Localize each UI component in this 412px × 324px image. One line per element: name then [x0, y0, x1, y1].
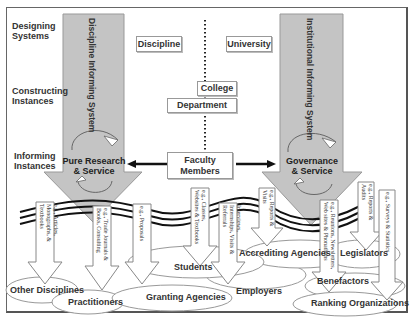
faculty-line: Members [168, 166, 232, 177]
faculty-members-box: Faculty Members [167, 152, 233, 179]
channel-text: e.g., Articles, Monographs, & Textbooks [38, 204, 59, 262]
label-line: Instances [14, 161, 56, 171]
label-line: Instances [12, 96, 68, 106]
audience-benefactors: Benefactors [317, 276, 369, 286]
audience-practitioners: Practitioners [68, 297, 123, 307]
channel-text: e.g., Reports & Audits [360, 184, 374, 230]
audience-other-disciplines: Other Disciplines [10, 285, 84, 295]
channel-text: e.g., Trade Journals & Books, Consulting [95, 208, 109, 266]
department-box: Department [167, 98, 237, 113]
audience-students: Students [174, 262, 213, 272]
pure-research-service: Pure Research & Service [62, 156, 126, 176]
university-box: University [226, 36, 272, 52]
center-line: Governance [280, 156, 344, 166]
center-line: & Service [62, 166, 126, 176]
faculty-line: Faculty [168, 155, 232, 166]
audience-employers: Employers [236, 286, 282, 296]
discipline-box: Discipline [136, 36, 182, 52]
channel-text: e.g., Reunions, Newsletters, Web sites &… [322, 202, 336, 270]
audience-accrediting-agencies: Accrediting Agencies [239, 248, 331, 258]
arrow-to-governance-icon [267, 160, 276, 168]
label-constructing-instances: Constructing Instances [12, 86, 68, 106]
channel-text: e.g., Reports & Visits [261, 190, 275, 228]
channel-text: e.g., Classes, Websites & Textbooks [193, 190, 207, 244]
label-line: Informing [14, 151, 56, 161]
governance-service: Governance & Service [280, 156, 344, 176]
audience-granting-agencies: Granting Agencies [146, 292, 226, 302]
arrow-to-pure-research-icon [127, 160, 136, 168]
label-designing-systems: Designing Systems [12, 21, 56, 41]
audience-ranking-organizations: Ranking Organizations [311, 298, 409, 308]
label-line: Designing [12, 21, 56, 31]
channel-text: e.g., Proposals [138, 206, 145, 260]
discipline-system-title: Discipline Informing System [87, 18, 97, 132]
label-line: Systems [12, 31, 56, 41]
label-line: Constructing [12, 86, 68, 96]
institutional-system-title: Institutional Informing System [305, 18, 315, 140]
label-informing-instances: Informing Instances [14, 151, 56, 171]
audience-legislators: Legislators [340, 248, 388, 258]
channel-text: e.g., Surveys & Statistics [384, 192, 391, 278]
center-line: & Service [280, 166, 344, 176]
center-line: Pure Research [62, 156, 126, 166]
college-box: College [197, 81, 237, 96]
